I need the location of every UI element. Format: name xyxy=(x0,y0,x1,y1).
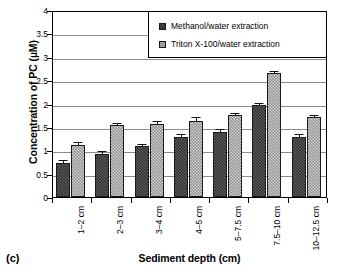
figure-panel-c: Concentration of PC (µM) 00.511.522.533.… xyxy=(0,0,337,274)
bar-triton xyxy=(71,145,85,197)
legend-label-methanol: Methanol/water extraction xyxy=(171,21,268,31)
bar-methanol xyxy=(174,137,188,197)
y-tick-label: 0 xyxy=(8,193,48,203)
error-bar-cap xyxy=(216,129,225,130)
error-bar-cap xyxy=(191,117,200,118)
bar-methanol xyxy=(56,163,70,197)
bar-triton xyxy=(228,115,242,197)
y-tick-label: 1.5 xyxy=(8,123,48,133)
legend-entry: Triton X-100/water extraction xyxy=(159,35,326,53)
x-tick-label: 4–5 cm xyxy=(194,206,204,234)
y-tick-label: 1 xyxy=(8,146,48,156)
bar-methanol xyxy=(135,146,149,197)
error-bar-cap xyxy=(255,103,264,104)
bar-methanol xyxy=(252,105,266,197)
error-bar-cap xyxy=(231,113,240,114)
error-bar-cap xyxy=(59,160,68,161)
bar-group xyxy=(92,12,131,197)
bar-group xyxy=(53,12,92,197)
error-bar-cap xyxy=(113,123,122,124)
x-tick-label: 1–2 cm xyxy=(76,206,86,234)
y-tick-label: 2 xyxy=(8,100,48,110)
error-bar-cap xyxy=(270,71,279,72)
x-tick-mark xyxy=(209,198,210,203)
legend-entry: Methanol/water extraction xyxy=(159,17,326,35)
y-tick-label: 0.5 xyxy=(8,170,48,180)
bar-methanol xyxy=(95,154,109,197)
error-bar-cap xyxy=(294,134,303,135)
x-tick-mark xyxy=(52,198,53,203)
error-bar-cap xyxy=(98,151,107,152)
x-tick-label: 3–4 cm xyxy=(154,206,164,234)
legend-label-triton: Triton X-100/water extraction xyxy=(171,39,280,49)
error-bar-cap xyxy=(74,142,83,143)
error-bar-cap xyxy=(137,144,146,145)
bar-triton xyxy=(150,124,164,197)
bar-triton xyxy=(267,73,281,197)
x-tick-label: 7.5–10 cm xyxy=(272,206,282,246)
bar-methanol xyxy=(292,137,306,197)
x-tick-mark xyxy=(91,198,92,203)
error-bar-cap xyxy=(176,134,185,135)
y-tick-label: 3 xyxy=(8,53,48,63)
x-tick-mark xyxy=(248,198,249,203)
legend-swatch-methanol-icon xyxy=(159,23,166,30)
y-tick-label: 2.5 xyxy=(8,76,48,86)
bar-methanol xyxy=(213,132,227,197)
chart-legend: Methanol/water extraction Triton X-100/w… xyxy=(148,11,327,58)
x-tick-label: 5–7.5 cm xyxy=(233,206,243,241)
bar-triton xyxy=(189,121,203,197)
y-tick-label: 4 xyxy=(8,6,48,16)
error-bar-cap xyxy=(309,115,318,116)
x-tick-label: 2–3 cm xyxy=(115,206,125,234)
error-bar-cap xyxy=(152,121,161,122)
bar-triton xyxy=(307,117,321,197)
panel-label: (c) xyxy=(6,252,19,264)
x-tick-mark xyxy=(327,198,328,203)
legend-swatch-triton-icon xyxy=(159,41,166,48)
x-tick-label: 10–12.5 cm xyxy=(311,206,321,250)
x-tick-mark xyxy=(170,198,171,203)
bar-triton xyxy=(110,125,124,197)
x-tick-mark xyxy=(131,198,132,203)
y-tick-label: 3.5 xyxy=(8,29,48,39)
x-tick-mark xyxy=(288,198,289,203)
x-axis-title: Sediment depth (cm) xyxy=(52,252,327,264)
